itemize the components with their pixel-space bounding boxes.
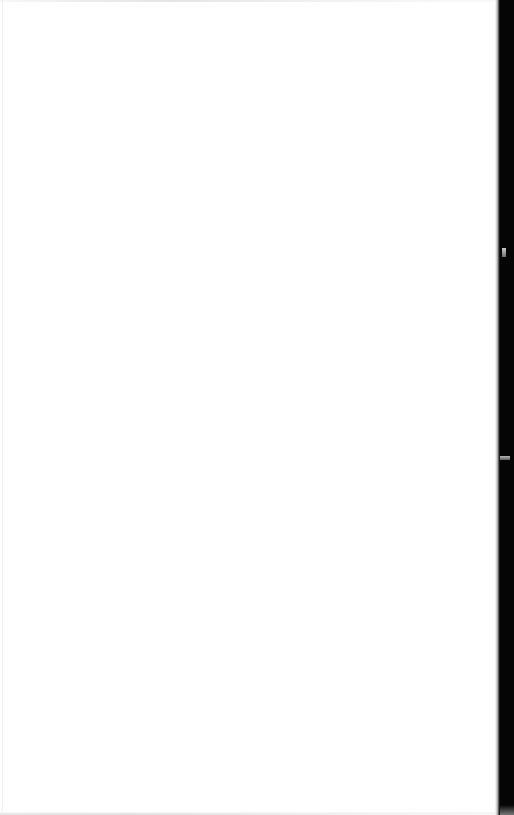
page-top-edge [0, 0, 503, 2]
screenshot-viewport [0, 0, 514, 815]
page-left-edge [2, 0, 3, 815]
right-dark-panel[interactable] [500, 0, 514, 815]
page-content-area[interactable] [4, 3, 501, 812]
right-panel-tick-upper[interactable] [502, 248, 506, 257]
page-surface [0, 0, 503, 815]
right-panel-bottom-fade [500, 805, 514, 815]
right-panel-tick-lower[interactable] [500, 456, 510, 460]
